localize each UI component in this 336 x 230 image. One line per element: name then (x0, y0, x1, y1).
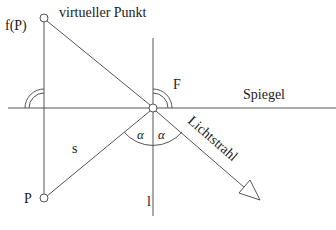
label-l: l (147, 194, 151, 209)
virtual-ray (47, 21, 150, 105)
ray-arrowhead (239, 180, 260, 200)
label-alpha-right: α (158, 127, 166, 142)
label-p: P (24, 191, 32, 206)
virtual-point-marker (40, 14, 48, 22)
label-mirror: Spiegel (243, 87, 285, 102)
point-p-marker (40, 194, 48, 202)
label-ray: Lichtstrahl (185, 113, 241, 164)
label-s: s (72, 141, 77, 156)
label-virtual-point: virtueller Punkt (59, 5, 147, 20)
right-angle-marker-left-inner (29, 93, 44, 108)
label-alpha-left: α (137, 127, 145, 142)
incident-ray (47, 111, 150, 196)
reflection-diagram: f(P) virtueller Punkt F Spiegel s P l α … (0, 0, 336, 230)
reflection-point-marker (149, 104, 157, 112)
label-f: F (173, 77, 181, 92)
right-angle-marker-left (25, 89, 44, 108)
label-fp: f(P) (5, 18, 27, 34)
